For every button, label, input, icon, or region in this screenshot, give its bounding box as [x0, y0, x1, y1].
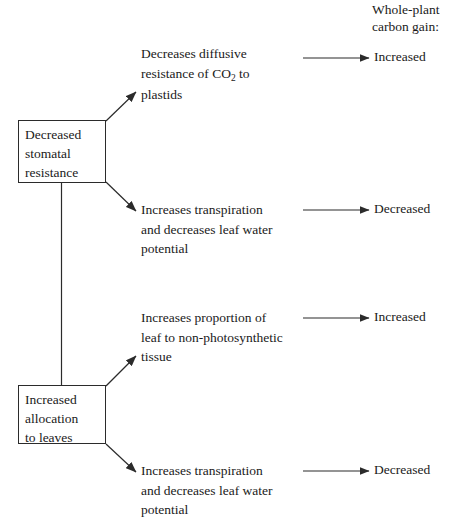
diagram-canvas: Whole-plant carbon gain: Decreased stoma…: [0, 0, 454, 530]
node-increased-allocation-to-leaves: Increased allocation to leaves: [18, 385, 106, 444]
effect-transpiration-upper: Increases transpiration and decreases le…: [141, 200, 316, 259]
outcome-label-1: Increased: [374, 47, 426, 66]
co2-subscript: 2: [231, 73, 236, 83]
connector-stomatal-to-diffusive: [106, 92, 136, 121]
effect-transpiration-lower: Increases transpiration and decreases le…: [141, 461, 316, 520]
whole-plant-carbon-gain-header: Whole-plant carbon gain:: [372, 2, 439, 35]
connector-stomatal-to-transpiration: [106, 182, 136, 211]
outcome-label-2: Decreased: [374, 199, 430, 218]
node-decreased-stomatal-resistance: Decreased stomatal resistance: [18, 120, 106, 183]
outcome-label-4: Decreased: [374, 460, 430, 479]
effect-nonphotosynthetic-tissue: Increases proportion of leaf to non-phot…: [141, 308, 316, 367]
connector-allocation-to-transpiration: [106, 444, 136, 472]
connector-allocation-to-tissue: [106, 356, 136, 386]
outcome-label-3: Increased: [374, 307, 426, 326]
effect-diffusive-resistance: Decreases diffusive resistance of CO2 to…: [141, 44, 316, 105]
